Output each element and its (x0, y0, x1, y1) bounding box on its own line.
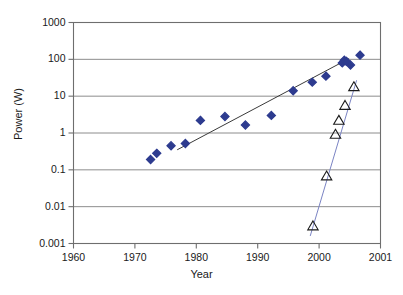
data-markers (146, 51, 364, 230)
marker-triangle (330, 129, 340, 138)
x-axis-title: Year (0, 268, 403, 280)
marker-triangle (334, 115, 344, 124)
y-tick-label: 1000 (10, 16, 66, 28)
marker-diamond (322, 72, 330, 80)
y-tick-label: 100 (10, 52, 66, 64)
gridlines (74, 23, 381, 244)
marker-diamond (167, 142, 175, 150)
y-tick-label: 1 (10, 126, 66, 138)
marker-diamond (146, 155, 154, 163)
trendline-filled-diamond-series (177, 59, 349, 150)
x-tick-label: 1990 (228, 251, 288, 263)
marker-diamond (267, 111, 275, 119)
marker-triangle (321, 171, 331, 180)
marker-diamond (181, 139, 189, 147)
marker-diamond (153, 149, 161, 157)
y-tick-label: 0.001 (10, 237, 66, 249)
x-tick-label: 2000 (289, 251, 349, 263)
chart-container: Power (W) Year 10001001010.10.010.001 19… (0, 0, 403, 295)
y-axis-title: Power (W) (12, 74, 24, 154)
trendlines (177, 59, 356, 236)
marker-diamond (356, 51, 364, 59)
marker-diamond (221, 112, 229, 120)
x-axis-tickmarks (69, 23, 381, 249)
marker-diamond (289, 87, 297, 95)
x-tick-label: 1980 (166, 251, 226, 263)
marker-diamond (241, 121, 249, 129)
y-tick-label: 10 (10, 89, 66, 101)
x-tick-label: 2001 (351, 251, 403, 263)
trendline-open-triangle-series (310, 80, 356, 236)
x-tick-label: 1970 (105, 251, 165, 263)
marker-diamond (196, 116, 204, 124)
y-tick-label: 0.01 (10, 200, 66, 212)
x-tick-label: 1960 (44, 251, 104, 263)
y-tick-label: 0.1 (10, 163, 66, 175)
